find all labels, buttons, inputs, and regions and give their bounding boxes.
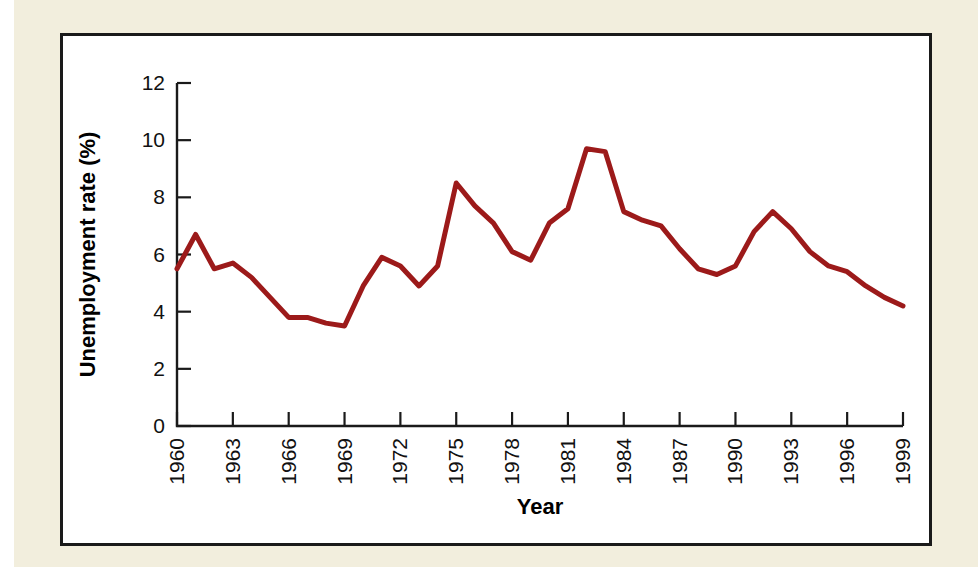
chart-area: 024681012 196019631966196919721975197819… bbox=[63, 36, 935, 549]
x-axis-ticks: 1960196319661969197219751978198119841987… bbox=[165, 412, 914, 485]
y-tick-label: 8 bbox=[153, 185, 165, 208]
x-tick-label: 1963 bbox=[221, 438, 244, 485]
x-tick-label: 1999 bbox=[891, 438, 914, 485]
y-tick-label: 12 bbox=[142, 71, 165, 94]
y-tick-label: 6 bbox=[153, 243, 165, 266]
x-tick-label: 1987 bbox=[668, 438, 691, 485]
x-tick-label: 1969 bbox=[333, 438, 356, 485]
y-axis-title: Unemployment rate (%) bbox=[75, 132, 100, 378]
axis-lines bbox=[177, 83, 903, 426]
x-tick-label: 1972 bbox=[388, 438, 411, 485]
y-tick-label: 10 bbox=[142, 128, 165, 151]
y-tick-label: 4 bbox=[153, 300, 165, 323]
chart-plate: 024681012 196019631966196919721975197819… bbox=[60, 33, 932, 546]
figure-page: 024681012 196019631966196919721975197819… bbox=[0, 0, 978, 567]
unemployment-line-chart: 024681012 196019631966196919721975197819… bbox=[63, 36, 935, 549]
x-tick-label: 1975 bbox=[444, 438, 467, 485]
y-tick-label: 0 bbox=[153, 414, 165, 437]
x-tick-label: 1990 bbox=[723, 438, 746, 485]
x-tick-label: 1996 bbox=[835, 438, 858, 485]
x-tick-label: 1966 bbox=[277, 438, 300, 485]
x-tick-label: 1993 bbox=[779, 438, 802, 485]
series-group bbox=[177, 149, 903, 326]
x-tick-label: 1978 bbox=[500, 438, 523, 485]
x-axis-title: Year bbox=[517, 494, 564, 519]
x-tick-label: 1984 bbox=[612, 438, 635, 485]
axes-group bbox=[177, 83, 903, 426]
x-tick-label: 1960 bbox=[165, 438, 188, 485]
y-tick-label: 2 bbox=[153, 357, 165, 380]
x-tick-label: 1981 bbox=[556, 438, 579, 485]
unemployment-rate-line bbox=[177, 149, 903, 326]
